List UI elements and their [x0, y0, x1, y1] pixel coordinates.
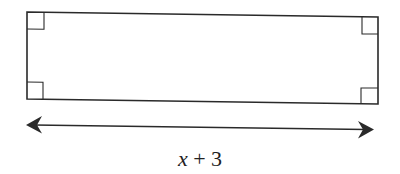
right-angle-marker-top-left	[27, 12, 44, 29]
right-angle-marker-bottom-left	[27, 82, 43, 99]
dimension-label-operator: +	[193, 146, 205, 171]
dimension-arrow-line	[34, 125, 366, 130]
right-angle-marker-bottom-right	[361, 88, 378, 104]
rectangle-shape	[27, 12, 378, 104]
dimension-label: x + 3	[0, 146, 400, 172]
dimension-label-variable: x	[178, 146, 188, 171]
right-angle-marker-top-right	[362, 17, 378, 34]
dimension-label-constant: 3	[211, 146, 222, 171]
